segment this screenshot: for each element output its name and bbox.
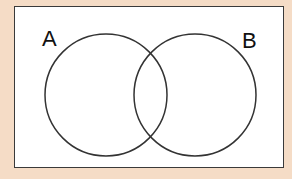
circle-b (134, 34, 256, 156)
set-b-label: B (242, 30, 257, 52)
circle-a (45, 34, 167, 156)
set-a-label: A (42, 28, 57, 50)
